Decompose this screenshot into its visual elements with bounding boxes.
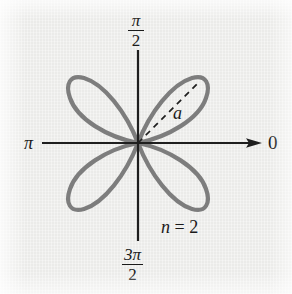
polar-plot-canvas — [0, 0, 292, 294]
axis-label-three-pi-over-two: 3π 2 — [122, 246, 143, 283]
fraction-numerator: π — [130, 12, 143, 30]
axis-label-pi-over-two: π 2 — [128, 12, 144, 49]
axis-label-pi: π — [24, 134, 33, 152]
petal-count-value: 2 — [189, 217, 198, 237]
fraction-denominator: 2 — [126, 265, 139, 283]
radius-label-a: a — [173, 104, 182, 122]
polar-rose-figure: π 2 3π 2 π 0 a n = 2 — [0, 0, 292, 294]
fraction-pi-over-two: π 2 — [128, 12, 144, 49]
axis-label-zero: 0 — [268, 133, 278, 152]
petal-count-variable: n — [161, 217, 170, 237]
fraction-numerator: 3π — [122, 246, 143, 264]
fraction-three-pi-over-two: 3π 2 — [122, 246, 143, 283]
petal-count-annotation: n = 2 — [161, 218, 198, 236]
petal-count-equals-sign: = — [170, 217, 189, 237]
fraction-denominator: 2 — [130, 31, 143, 49]
